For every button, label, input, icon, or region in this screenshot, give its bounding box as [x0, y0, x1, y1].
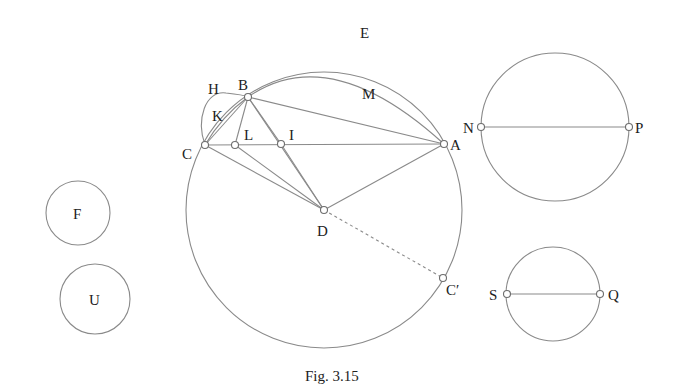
segment-CA — [205, 144, 444, 145]
label-I: I — [289, 127, 294, 143]
label-Q: Q — [608, 287, 619, 303]
label-S: S — [489, 287, 497, 303]
point-C — [202, 142, 209, 149]
label-H: H — [208, 81, 219, 97]
point-B — [245, 94, 252, 101]
label-C: C — [182, 146, 192, 162]
point-C-prime — [440, 275, 447, 282]
arc-BMA — [248, 77, 444, 144]
point-P — [626, 124, 633, 131]
segment-ID — [281, 144, 324, 210]
segment-DC-prime-dashed — [324, 210, 443, 278]
label-C-prime: C′ — [446, 282, 459, 298]
point-I — [278, 141, 285, 148]
point-S — [504, 291, 511, 298]
label-B: B — [238, 77, 248, 93]
label-E: E — [360, 25, 369, 41]
label-N: N — [463, 120, 474, 136]
label-F: F — [73, 206, 81, 222]
label-D: D — [317, 223, 328, 239]
label-U: U — [89, 292, 100, 308]
label-K: K — [212, 108, 223, 124]
point-L — [232, 142, 239, 149]
label-L: L — [244, 127, 253, 143]
segment-BA — [248, 97, 444, 144]
figure-caption: Fig. 3.15 — [305, 368, 359, 384]
segment-CD — [205, 145, 324, 210]
point-Q — [597, 291, 604, 298]
segment-LD — [235, 145, 324, 210]
arc-CHB — [202, 93, 248, 145]
segment-AD — [324, 144, 444, 210]
point-A — [441, 141, 448, 148]
label-M: M — [362, 86, 375, 102]
point-D — [321, 207, 328, 214]
label-P: P — [635, 120, 643, 136]
label-A: A — [450, 137, 461, 153]
point-N — [478, 124, 485, 131]
geometry-figure: A B C L I D C′ N P S Q E M H K F U Fig. … — [0, 0, 678, 392]
